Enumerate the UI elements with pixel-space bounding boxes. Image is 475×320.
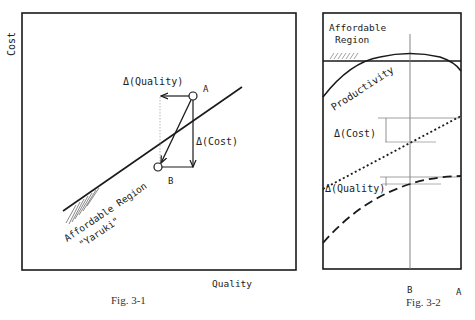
fig2-delta-quality-label: Δ(Quality) [325,183,385,194]
fig2-frame [323,13,461,269]
productivity-label: Productivity [329,64,396,113]
delta-cost-label: Δ(Cost) [196,136,238,147]
diagram-canvas: Cost Quality A B Δ(Quality) Δ(Cost) [0,0,475,320]
fig1-caption: Fig. 3-1 [111,294,146,306]
figure-3-1: Cost Quality A B Δ(Quality) Δ(Cost) [6,13,296,306]
x-axis-label: Quality [212,278,252,289]
fig2-affordable-label: Affordable [329,22,386,33]
x-tick-a: A [456,287,462,297]
fig2-caption: Fig. 3-2 [406,296,441,308]
y-axis-label: Cost [6,32,17,56]
x-tick-b: B [407,285,412,295]
cost-line [323,116,461,189]
fig2-hatching [330,53,358,59]
point-a-label: A [203,84,209,94]
point-b-marker [154,163,162,171]
fig2-delta-cost-label: Δ(Cost) [334,128,376,139]
a-to-b-arrow [161,100,191,163]
delta-quality-label: Δ(Quality) [123,76,183,87]
fig1-frame [22,13,296,270]
affordable-boundary-line [63,87,242,211]
point-a-marker [189,92,197,100]
point-b-label: B [168,176,173,186]
figure-3-2: Affordable Region Productivity Δ(Cost) [323,13,462,308]
fig2-region-label: Region [335,34,369,45]
